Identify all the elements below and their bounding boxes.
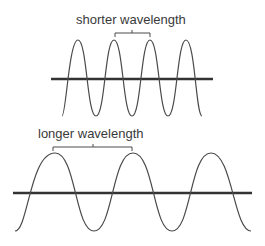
short-wavelength-label: shorter wavelength — [76, 12, 186, 27]
long-wavelength-label: longer wavelength — [38, 126, 144, 141]
wave-diagram — [0, 0, 265, 246]
short-wavelength-bracket — [115, 30, 150, 37]
long-wavelength-bracket — [53, 144, 132, 151]
